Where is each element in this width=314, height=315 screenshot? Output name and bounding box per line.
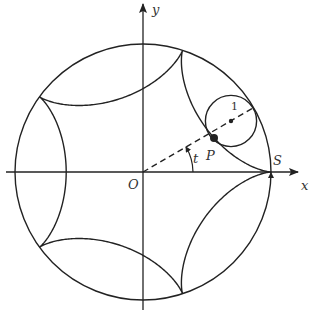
point-s-label: S <box>273 153 282 168</box>
radius-label: 1 <box>231 100 238 113</box>
origin-label: O <box>128 177 139 192</box>
s-marker <box>268 172 274 178</box>
angle-arc <box>186 147 193 172</box>
point-p <box>210 134 218 142</box>
angle-t-label: t <box>193 151 199 166</box>
hypocycloid-diagram: y x O P S t 1 <box>0 0 314 315</box>
y-axis-label: y <box>151 2 160 17</box>
x-axis-label: x <box>301 178 309 193</box>
point-p-label: P <box>205 148 215 163</box>
rolling-circle-center <box>229 119 233 123</box>
